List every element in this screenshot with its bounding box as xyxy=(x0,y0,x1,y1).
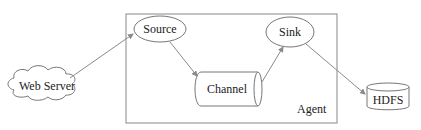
agent-label: Agent xyxy=(297,102,327,116)
edge-webserver-source xyxy=(70,34,133,78)
source-node: Source xyxy=(134,16,186,42)
web-server-node: Web Server xyxy=(8,66,75,101)
hdfs-label: HDFS xyxy=(373,93,404,107)
source-label: Source xyxy=(143,22,176,36)
edge-sink-hdfs xyxy=(306,44,365,94)
flume-architecture-diagram: Agent Web Server Source Sink Channel HDF… xyxy=(0,0,421,130)
channel-label: Channel xyxy=(207,82,248,96)
sink-node: Sink xyxy=(266,17,314,47)
edge-channel-sink xyxy=(262,47,283,82)
channel-node: Channel xyxy=(195,72,262,106)
hdfs-node: HDFS xyxy=(367,83,409,110)
sink-label: Sink xyxy=(279,25,301,39)
edge-source-channel xyxy=(170,42,197,76)
web-server-label: Web Server xyxy=(19,79,75,93)
